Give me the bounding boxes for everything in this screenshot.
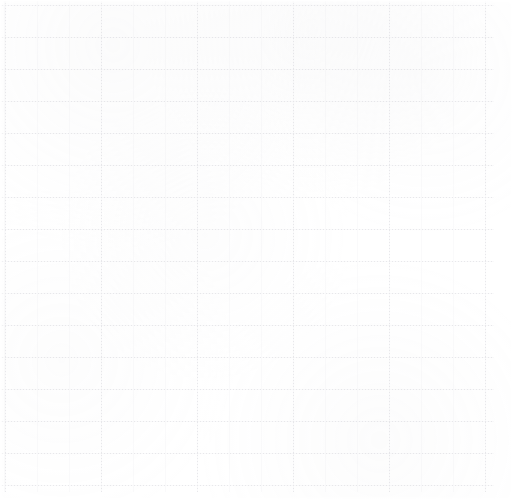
outer-margin-mask — [0, 0, 513, 500]
grid-canvas-root — [0, 0, 513, 500]
paper-texture-noise — [0, 0, 513, 500]
grid-lines-major — [0, 0, 513, 500]
graph-paper-surface — [0, 0, 513, 500]
grid-lines-dotted-overlay — [0, 0, 513, 500]
